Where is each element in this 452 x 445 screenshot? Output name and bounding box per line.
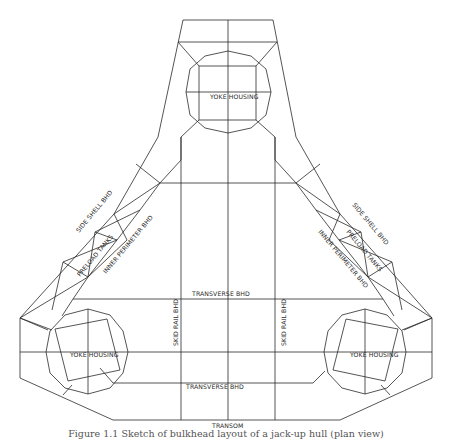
- central-column: [160, 20, 296, 420]
- yoke-housing-right-label: YOKE HOUSING: [349, 351, 399, 358]
- right-wing-bulkheads: SIDE SHELL BHD PRELOAD TANKS INNER PERIM…: [275, 160, 432, 330]
- figure-caption: Figure 1.1 Sketch of bulkhead layout of …: [0, 428, 452, 439]
- hull-plan-diagram: YOKE HOUSING SIDE SHELL BHD PRELOAD TANK…: [0, 0, 452, 445]
- transverse-bhd-bottom-label: TRANSVERSE BHD: [185, 383, 244, 390]
- left-yoke-housing: YOKE HOUSING: [46, 309, 128, 394]
- yoke-housing-left-label: YOKE HOUSING: [69, 351, 119, 358]
- left-wing-bulkheads: SIDE SHELL BHD PRELOAD TANKS INNER PERIM…: [20, 160, 181, 330]
- transverse-bhd-top-label: TRANSVERSE BHD: [191, 290, 250, 297]
- skid-rail-left-label: SKID RAIL BHD: [172, 299, 179, 346]
- inner-perimeter-left-label: INNER PERIMETER BHD: [101, 214, 154, 275]
- yoke-housing-top-label: YOKE HOUSING: [209, 93, 259, 100]
- skid-rail-right-label: SKID RAIL BHD: [280, 299, 287, 346]
- right-yoke-housing: YOKE HOUSING: [324, 309, 406, 394]
- side-shell-left-label: SIDE SHELL BHD: [74, 189, 113, 234]
